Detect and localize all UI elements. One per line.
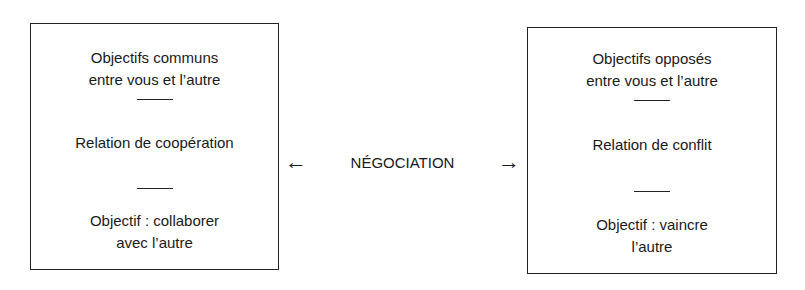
- right-relation: Relation de conflit: [528, 134, 776, 156]
- right-heading-line1: Objectifs opposés: [528, 48, 776, 70]
- right-heading-line2: entre vous et l’autre: [528, 70, 776, 92]
- right-divider-bottom: [634, 191, 670, 192]
- right-goal-line1: Objectif : vaincre: [528, 214, 776, 236]
- negotiation-center: ← NÉGOCIATION →: [285, 151, 520, 173]
- left-divider-top: [137, 99, 173, 100]
- right-arrow-icon: →: [498, 151, 520, 173]
- right-divider-top: [634, 100, 670, 101]
- left-heading-line1: Objectifs communs: [31, 47, 278, 69]
- cooperation-box: Objectifs communs entre vous et l’autre …: [30, 23, 279, 270]
- left-arrow-icon: ←: [285, 151, 307, 173]
- negotiation-label: NÉGOCIATION: [351, 154, 455, 171]
- right-goal-line2: l’autre: [528, 236, 776, 258]
- left-divider-bottom: [137, 188, 173, 189]
- left-relation: Relation de coopération: [31, 132, 278, 154]
- conflict-box: Objectifs opposés entre vous et l’autre …: [527, 27, 777, 274]
- left-heading-line2: entre vous et l’autre: [31, 69, 278, 91]
- left-goal-line1: Objectif : collaborer: [31, 210, 278, 232]
- left-goal-line2: avec l’autre: [31, 232, 278, 254]
